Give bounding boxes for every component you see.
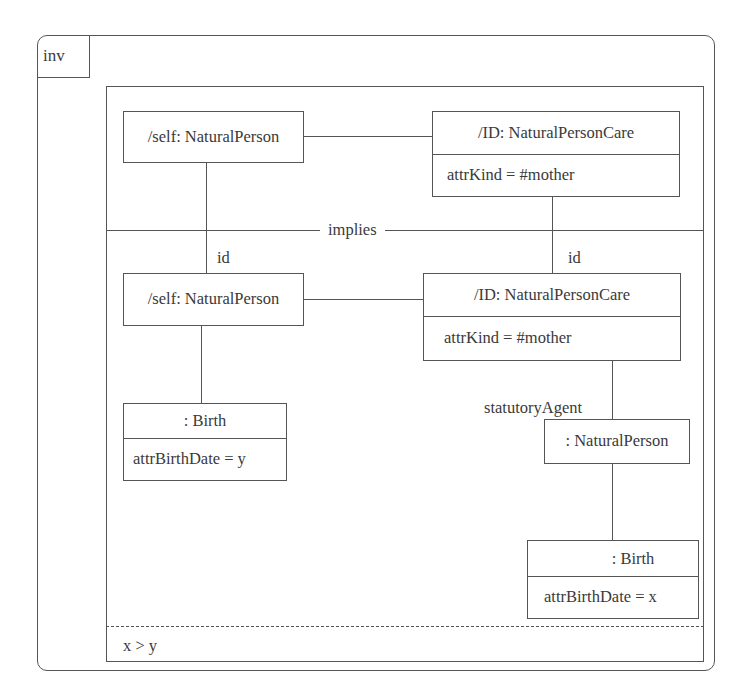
id-link-left-label: id xyxy=(217,248,230,268)
premise-association-line xyxy=(303,136,433,137)
conclusion-id-object: /ID: NaturalPersonCare attrKind = #mothe… xyxy=(423,273,681,361)
id-link-left-line xyxy=(206,162,207,274)
object-title: /self: NaturalPerson xyxy=(124,112,303,161)
premise-self-object: /self: NaturalPerson xyxy=(123,111,304,163)
agent-birth-object: : Birth attrBirthDate = x xyxy=(527,540,699,619)
conclusion-self-object: /self: NaturalPerson xyxy=(123,273,304,326)
object-title: /self: NaturalPerson xyxy=(124,274,303,324)
implies-label: implies xyxy=(320,220,385,240)
implies-separator-line xyxy=(106,230,704,231)
statutory-agent-role-label: statutoryAgent xyxy=(484,398,582,418)
object-title: /ID: NaturalPersonCare xyxy=(433,112,679,154)
premise-id-object: /ID: NaturalPersonCare attrKind = #mothe… xyxy=(432,111,680,197)
statutory-agent-link-line xyxy=(612,360,613,420)
object-attribute: attrBirthDate = y xyxy=(124,438,286,479)
id-link-right-line xyxy=(552,196,553,274)
constraint-text: x > y xyxy=(123,636,157,656)
object-attribute: attrKind = #mother xyxy=(433,154,679,195)
object-title: : Birth xyxy=(124,404,286,438)
object-title: /ID: NaturalPersonCare xyxy=(424,274,680,316)
statutory-agent-object: : NaturalPerson xyxy=(544,419,690,464)
object-title: : NaturalPerson xyxy=(545,420,689,462)
object-attribute: attrBirthDate = x xyxy=(528,576,698,617)
self-birth-object: : Birth attrBirthDate = y xyxy=(123,403,287,481)
constraint-divider xyxy=(106,626,704,627)
conclusion-association-line xyxy=(303,299,424,300)
id-link-right-label: id xyxy=(568,248,581,268)
self-birth-link-line xyxy=(201,325,202,403)
object-title: : Birth xyxy=(528,541,698,576)
frame-tag: inv xyxy=(37,35,90,78)
object-attribute: attrKind = #mother xyxy=(424,316,680,359)
agent-birth-link-line xyxy=(612,463,613,541)
